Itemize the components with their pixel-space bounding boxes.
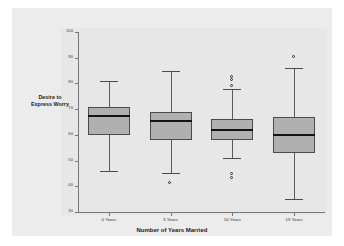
y-tick-label: 90 [68,54,73,60]
whisker-upper [171,71,172,112]
x-tick [294,213,295,216]
outlier-point [230,84,233,87]
y-axis-line [78,32,79,213]
whisker-upper [109,81,110,107]
screenshot-root: 10090807060504030 0 Years5 Years10 Years… [0,0,344,246]
whisker-lower [109,135,110,171]
y-tick: 60 [75,135,78,136]
whisker-cap-upper [100,81,118,82]
x-tick [171,213,172,216]
whisker-cap-upper [162,71,180,72]
whisker-upper [294,68,295,117]
y-axis-title: Desire to Express Worry [29,94,71,108]
whisker-cap-lower [223,158,241,159]
y-tick: 30 [75,212,78,213]
x-axis-title: Number of Years Married [12,227,332,233]
x-tick-label: 10 Years [224,217,241,223]
outlier-point [292,55,295,58]
figure-background: 10090807060504030 0 Years5 Years10 Years… [12,8,332,236]
y-tick: 80 [75,83,78,84]
whisker-upper [232,89,233,120]
y-tick: 50 [75,161,78,162]
y-tick-label: 30 [68,208,73,214]
y-tick-label: 50 [68,157,73,163]
y-tick: 100 [75,32,78,33]
y-tick-label: 40 [68,182,73,188]
y-tick: 40 [75,186,78,187]
whisker-cap-upper [223,89,241,90]
y-tick-label: 80 [68,79,73,85]
x-tick-label: 5 Years [163,217,178,223]
outlier-point [230,176,233,179]
median-line [273,134,315,136]
x-axis-line [78,212,325,213]
y-tick: 70 [75,109,78,110]
box-iqr [88,107,130,135]
y-tick-label: 100 [66,28,73,34]
whisker-cap-lower [100,171,118,172]
outlier-point [230,75,233,78]
whisker-lower [294,153,295,199]
whisker-cap-lower [285,199,303,200]
x-tick-label: 15 Years [286,217,303,223]
x-tick [109,213,110,216]
whisker-cap-upper [285,68,303,69]
whisker-lower [232,140,233,158]
whisker-lower [171,140,172,173]
whisker-cap-lower [162,173,180,174]
x-tick-label: 0 Years [102,217,117,223]
median-line [211,129,253,131]
y-tick-label: 60 [68,131,73,137]
median-line [88,115,130,117]
y-tick: 90 [75,58,78,59]
median-line [150,120,192,122]
box-iqr [150,112,192,140]
x-tick [232,213,233,216]
